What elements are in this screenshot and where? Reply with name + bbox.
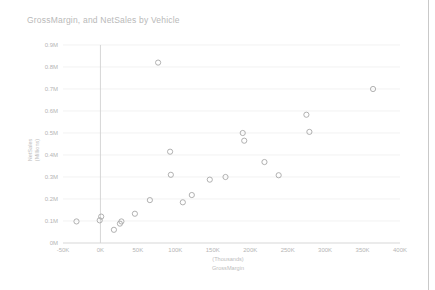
svg-text:0M: 0M xyxy=(50,240,58,246)
svg-text:NetSales: NetSales xyxy=(27,138,33,161)
svg-text:300K: 300K xyxy=(318,247,332,253)
svg-text:-50K: -50K xyxy=(57,247,70,253)
data-point xyxy=(242,138,247,143)
svg-text:200K: 200K xyxy=(243,247,257,253)
svg-text:250K: 250K xyxy=(281,247,295,253)
svg-text:0.1M: 0.1M xyxy=(45,218,58,224)
data-point xyxy=(156,60,161,65)
data-point xyxy=(304,112,309,117)
data-point xyxy=(74,219,79,224)
data-point xyxy=(180,200,185,205)
svg-text:100K: 100K xyxy=(168,247,182,253)
data-point xyxy=(147,198,152,203)
svg-text:0.2M: 0.2M xyxy=(45,196,58,202)
data-points xyxy=(74,60,376,232)
data-point xyxy=(111,227,116,232)
scatter-plot: 0M0.1M0.2M0.3M0.4M0.5M0.6M0.7M0.8M0.9M -… xyxy=(0,0,435,290)
svg-text:0.6M: 0.6M xyxy=(45,108,58,114)
svg-text:400K: 400K xyxy=(393,247,407,253)
svg-text:350K: 350K xyxy=(356,247,370,253)
data-point xyxy=(207,177,212,182)
svg-text:0.3M: 0.3M xyxy=(45,174,58,180)
svg-text:0K: 0K xyxy=(97,247,104,253)
data-point xyxy=(132,211,137,216)
svg-text:GrossMargin: GrossMargin xyxy=(212,265,244,271)
chart-container: GrossMargin, and NetSales by Vehicle 0M0… xyxy=(0,0,435,290)
svg-text:50K: 50K xyxy=(133,247,144,253)
x-axis-title: (Thousands) GrossMargin xyxy=(212,256,244,271)
svg-text:(Thousands): (Thousands) xyxy=(212,256,244,262)
axis-lines xyxy=(63,45,400,243)
data-point xyxy=(167,149,172,154)
y-axis-title: NetSales (Millions) xyxy=(27,138,40,161)
gridlines xyxy=(63,45,400,221)
svg-text:0.8M: 0.8M xyxy=(45,64,58,70)
data-point xyxy=(189,192,194,197)
data-point xyxy=(262,159,267,164)
data-point xyxy=(307,129,312,134)
svg-text:0.5M: 0.5M xyxy=(45,130,58,136)
svg-text:150K: 150K xyxy=(206,247,220,253)
x-axis-tick-labels: -50K0K50K100K150K200K250K300K350K400K xyxy=(57,247,407,253)
y-axis-tick-labels: 0M0.1M0.2M0.3M0.4M0.5M0.6M0.7M0.8M0.9M xyxy=(45,42,58,246)
svg-text:0.9M: 0.9M xyxy=(45,42,58,48)
svg-text:0.7M: 0.7M xyxy=(45,86,58,92)
data-point xyxy=(168,172,173,177)
svg-text:(Millions): (Millions) xyxy=(34,139,40,162)
svg-text:0.4M: 0.4M xyxy=(45,152,58,158)
